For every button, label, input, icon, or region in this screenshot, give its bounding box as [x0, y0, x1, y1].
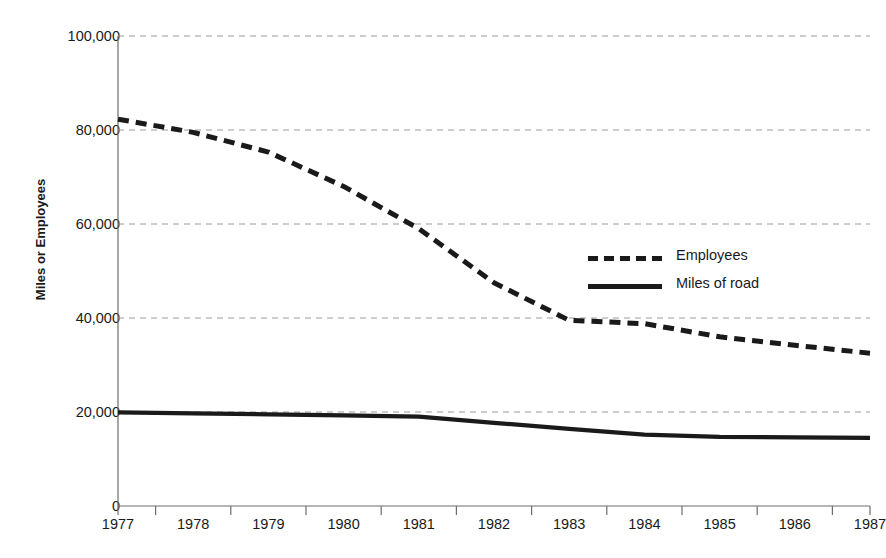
- legend-label: Employees: [676, 247, 748, 263]
- legend-swatch-solid: [588, 284, 662, 289]
- legend-label: Miles of road: [676, 275, 759, 291]
- legend-swatch-dashed: [588, 256, 662, 261]
- series-line-miles-of-road: [118, 412, 870, 437]
